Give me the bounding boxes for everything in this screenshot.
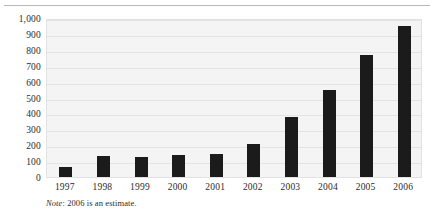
y-axis-tick-label: 400	[0, 109, 41, 119]
bar-series	[47, 20, 421, 177]
y-axis-tick-label: 200	[0, 141, 41, 151]
y-axis-tick-label: 800	[0, 46, 41, 56]
y-axis-tick-label: 0	[0, 173, 41, 183]
y-axis-tick-label: 500	[0, 94, 41, 104]
bar	[172, 155, 185, 177]
y-axis-tick-label: 100	[0, 157, 41, 167]
bar	[360, 55, 373, 177]
bar	[210, 154, 223, 177]
note-label: Note	[46, 198, 62, 208]
y-axis-labels: 01002003004005006007008009001,000	[0, 19, 41, 178]
x-axis-labels: 1997199819992000200120022003200420052006	[46, 181, 422, 195]
chart-note: Note: 2006 is an estimate.	[46, 198, 137, 209]
y-axis-tick-label: 1,000	[0, 14, 41, 24]
x-axis-tick-label: 2006	[381, 181, 425, 193]
y-axis-tick-label: 600	[0, 78, 41, 88]
bar	[59, 167, 72, 177]
note-text: : 2006 is an estimate.	[62, 198, 136, 208]
y-axis-tick-label: 700	[0, 62, 41, 72]
bar	[285, 117, 298, 177]
bar-chart-figure: 01002003004005006007008009001,000 199719…	[0, 0, 434, 214]
bar	[323, 90, 336, 177]
plot-area	[46, 19, 422, 178]
bar	[398, 26, 411, 177]
bar	[247, 144, 260, 177]
bar	[97, 156, 110, 177]
y-axis-tick-label: 900	[0, 30, 41, 40]
bar	[135, 157, 148, 177]
y-axis-tick-label: 300	[0, 125, 41, 135]
top-divider-rule	[4, 5, 430, 6]
